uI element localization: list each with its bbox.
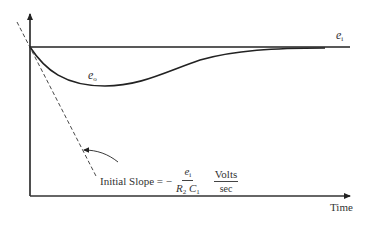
denominator-r-sub: 2	[183, 188, 187, 196]
x-axis-label: Time	[330, 201, 353, 213]
output-curve-label: eo	[88, 68, 97, 83]
output-label-sub: o	[93, 75, 97, 83]
units-numerator: Volts	[214, 169, 238, 182]
slope-denominator: R2 C1	[176, 181, 200, 196]
numerator-sub: i	[189, 171, 191, 179]
annotation-prefix: Initial Slope = −	[100, 175, 172, 187]
initial-slope-annotation: Initial Slope = − ei R2 C1 Volts sec	[100, 166, 238, 196]
slope-fraction: ei R2 C1	[176, 166, 200, 196]
annotation-pointer-arrow	[84, 150, 118, 162]
input-curve-label: ei	[336, 28, 343, 43]
input-label-sub: i	[341, 35, 343, 43]
slope-numerator: ei	[182, 166, 193, 181]
denominator-c-sub: 1	[196, 188, 200, 196]
units-denominator: sec	[220, 182, 233, 194]
initial-slope-tangent	[17, 22, 97, 178]
output-response-curve	[30, 47, 325, 86]
slope-units: Volts sec	[214, 169, 238, 194]
denominator-r: R	[176, 182, 183, 194]
